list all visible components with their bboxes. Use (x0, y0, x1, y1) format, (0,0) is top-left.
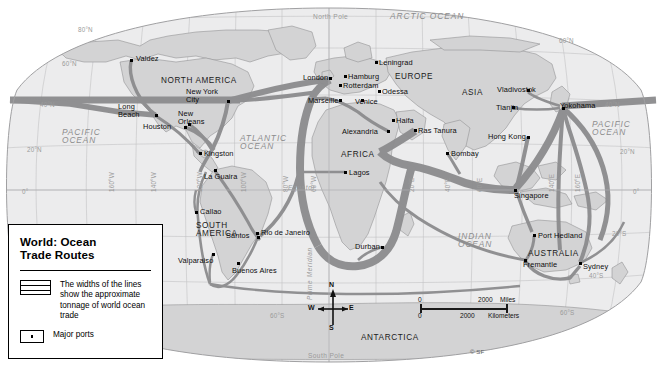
port-dot-marker (195, 211, 198, 214)
port-dot-marker (227, 100, 230, 103)
port-dot-marker (579, 262, 582, 265)
port-dot-marker (414, 129, 417, 132)
scale-zero-km: 0 (418, 312, 422, 319)
legend-title-line1: World: Ocean (20, 235, 96, 248)
scale-km-value: 2000 (460, 312, 475, 319)
port-dot-marker (392, 119, 395, 122)
legend-row-routes: The widths of the lines show the approxi… (20, 280, 152, 321)
port-dot-marker (446, 152, 449, 155)
port-dot-marker (378, 90, 381, 93)
scale-miles-unit: Miles (500, 296, 515, 303)
port-dot-marker (329, 77, 332, 80)
legend-title-line2: Trade Routes (20, 248, 95, 261)
port-dot-marker (527, 89, 530, 92)
port-dot-marker (339, 99, 342, 102)
port-dot-marker (214, 169, 217, 172)
compass-south: S (329, 324, 334, 331)
port-dot-marker (199, 152, 202, 155)
route-width-swatch (20, 280, 51, 295)
port-dot-marker (130, 59, 133, 62)
legend-row-ports: Major ports (20, 330, 152, 343)
compass-west: W (308, 304, 315, 311)
port-dot-marker (339, 84, 342, 87)
legend-ports-label: Major ports (53, 330, 94, 340)
port-dot-marker (533, 234, 536, 237)
port-dot-marker (256, 232, 259, 235)
port-dot-marker (344, 75, 347, 78)
port-dot-marker (155, 114, 158, 117)
compass-east: E (349, 304, 354, 311)
port-dot-marker (387, 130, 390, 133)
port-dot-icon (31, 335, 34, 338)
legend-title: World: Ocean Trade Routes (20, 235, 152, 262)
legend-divider (20, 270, 151, 271)
scale-km-unit: Kilometers (488, 312, 519, 319)
port-dot-marker (514, 189, 517, 192)
port-dot-marker (237, 262, 240, 265)
port-dot-marker (381, 246, 384, 249)
port-dot-marker (212, 253, 215, 256)
compass-rose: N S E W (310, 283, 356, 333)
legend-routes-label: The widths of the lines show the approxi… (60, 280, 152, 321)
port-dot-marker (361, 99, 364, 102)
port-dot-marker (375, 61, 378, 64)
port-dot-marker (562, 107, 565, 110)
port-dot-marker (344, 171, 347, 174)
compass-north: N (329, 281, 334, 288)
map-legend: World: Ocean Trade Routes The widths of … (8, 224, 163, 359)
port-dot-marker (257, 236, 260, 239)
port-dot-marker (524, 259, 527, 262)
port-dot-marker (188, 123, 191, 126)
major-port-swatch (20, 330, 44, 343)
map-screenshot: PACIFICOCEANATLANTICOCEANINDIANOCEANPACI… (0, 0, 659, 370)
port-dot-marker (184, 126, 187, 129)
scale-bar-line (420, 308, 508, 310)
scale-miles-value: 2000 (478, 296, 493, 303)
port-dot-marker (527, 136, 530, 139)
scale-zero-miles: 0 (418, 296, 422, 303)
port-dot-marker (512, 106, 515, 109)
